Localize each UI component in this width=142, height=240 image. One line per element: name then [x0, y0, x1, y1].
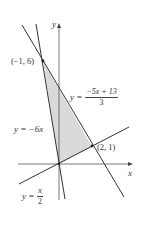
x-axis-label: x	[128, 169, 132, 178]
line3-fraction: x 2	[37, 187, 43, 206]
vertex-point-b	[91, 145, 94, 148]
point-a-label: (−1, 6)	[11, 57, 34, 66]
y-axis-label: y	[52, 20, 56, 29]
line2-denominator: 3	[100, 98, 104, 107]
vertex-origin	[58, 163, 60, 165]
line3-lhs: y =	[22, 192, 34, 201]
line3-numerator: x	[37, 187, 43, 197]
line2-fraction: −5x + 13 3	[85, 88, 117, 107]
line2-numerator: −5x + 13	[85, 88, 117, 98]
line3-label: y = x 2	[22, 187, 43, 206]
y-axis-arrow-icon	[57, 23, 61, 28]
line-y-neg5x-plus13-over3	[22, 25, 124, 197]
x-axis-arrow-icon	[128, 162, 133, 166]
line3-denominator: 2	[38, 197, 42, 206]
line2-lhs: y =	[70, 93, 82, 102]
line2-label: y = −5x + 13 3	[70, 88, 118, 107]
line1-label: y = −6x	[14, 125, 43, 134]
vertex-point-a	[42, 60, 45, 63]
point-b-label: (2, 1)	[97, 143, 115, 152]
